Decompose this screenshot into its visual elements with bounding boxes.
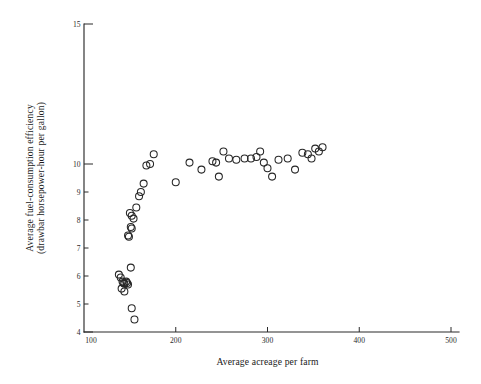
y-tick-label-9: 9	[77, 188, 81, 197]
y-tick-label-10: 10	[73, 160, 81, 169]
data-point	[172, 179, 179, 186]
x-axis-title: Average acreage per farm	[216, 356, 319, 367]
data-point	[292, 166, 299, 173]
scatter-plot-figure: 4567891015100200300400500Average acreage…	[0, 0, 481, 384]
y-tick-label-15: 15	[73, 20, 81, 29]
data-point	[233, 156, 240, 163]
x-tick-label-100: 100	[85, 336, 97, 345]
data-point	[137, 189, 144, 196]
data-point	[269, 173, 276, 180]
data-point	[257, 148, 264, 155]
data-point	[319, 144, 326, 151]
data-point	[220, 148, 227, 155]
data-point	[308, 155, 315, 162]
y-tick-label-8: 8	[77, 216, 81, 225]
data-point	[150, 151, 157, 158]
x-tick-label-200: 200	[170, 336, 182, 345]
data-point	[198, 166, 205, 173]
data-point	[284, 155, 291, 162]
data-point	[133, 204, 140, 211]
x-tick-label-300: 300	[262, 336, 274, 345]
data-point	[127, 264, 134, 271]
data-point	[264, 165, 271, 172]
y-axis-title-line2: (drawbar horsepower-hour per gallon)	[35, 102, 47, 254]
x-tick-label-400: 400	[354, 336, 366, 345]
y-tick-label-4: 4	[77, 328, 81, 337]
data-point	[275, 156, 282, 163]
data-point	[131, 316, 138, 323]
data-point	[225, 155, 232, 162]
y-tick-label-5: 5	[77, 300, 81, 309]
data-point	[128, 305, 135, 312]
y-tick-label-7: 7	[77, 244, 81, 253]
data-point	[136, 193, 143, 200]
plot-canvas: 4567891015100200300400500Average acreage…	[0, 0, 481, 384]
data-point	[215, 173, 222, 180]
y-tick-label-6: 6	[77, 272, 81, 281]
x-tick-label-500: 500	[445, 336, 457, 345]
data-point	[186, 159, 193, 166]
y-axis-title-line1: Average fuel-consumption efficiency	[24, 104, 35, 252]
data-point	[140, 180, 147, 187]
